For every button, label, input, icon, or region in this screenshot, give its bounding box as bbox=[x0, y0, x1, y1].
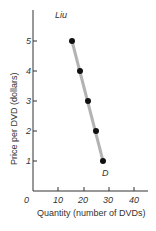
x-ticks: 0 10 20 30 40 bbox=[24, 187, 139, 205]
y-tick-label: 1 bbox=[26, 156, 31, 166]
y-tick-label: 2 bbox=[25, 126, 31, 136]
x-tick-label: 30 bbox=[103, 195, 113, 205]
x-tick-label: 0 bbox=[24, 195, 29, 205]
curve-label: D bbox=[102, 168, 109, 178]
data-point bbox=[100, 158, 106, 164]
x-tick-label: 10 bbox=[53, 195, 63, 205]
chart-title: Liu bbox=[55, 10, 67, 20]
x-tick-label: 40 bbox=[129, 195, 139, 205]
x-axis-label: Quantity (number of DVDs) bbox=[37, 208, 146, 218]
data-point bbox=[77, 68, 83, 74]
x-tick-label: 20 bbox=[77, 195, 88, 205]
y-tick-label: 4 bbox=[26, 66, 31, 76]
y-ticks: 5 4 3 2 1 bbox=[25, 36, 37, 166]
y-tick-label: 5 bbox=[26, 36, 32, 46]
data-point bbox=[85, 98, 91, 104]
data-point bbox=[69, 38, 75, 44]
y-tick-label: 3 bbox=[26, 96, 31, 106]
demand-chart: 5 4 3 2 1 0 10 20 30 40 Quantity (number… bbox=[0, 0, 156, 231]
data-points bbox=[69, 38, 106, 164]
y-axis-label: Price per DVD (dollars) bbox=[9, 72, 19, 165]
data-point bbox=[93, 128, 99, 134]
